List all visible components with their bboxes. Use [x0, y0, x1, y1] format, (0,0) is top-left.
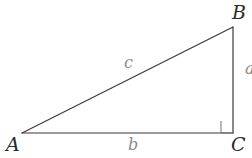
vertex-label-a: A [6, 135, 20, 154]
segment-hypotenuse-ab [22, 27, 233, 133]
vertex-label-b: B [232, 3, 246, 22]
right-angle-marker-icon [221, 121, 233, 133]
right-triangle-figure: A B C c b a [0, 0, 252, 158]
triangle-drawing [0, 0, 252, 158]
side-label-hypotenuse-c: c [124, 55, 133, 71]
side-label-base-b: b [128, 137, 138, 153]
side-label-vertical-a: a [245, 61, 252, 77]
vertex-label-c: C [231, 135, 246, 154]
